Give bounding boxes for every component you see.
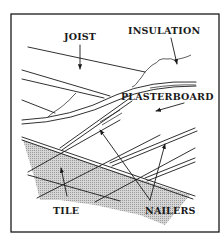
ceiling-diagram: JOIST INSULATION PLASTERBOARD TILE NAILE… (0, 0, 222, 242)
insulation-fuzz-left (48, 93, 76, 117)
plasterboard-arrow (156, 103, 184, 111)
label-tile: TILE (53, 205, 79, 216)
joist-left-a (22, 70, 110, 96)
nailer-1a (60, 98, 130, 148)
label-plasterboard: PLASTERBOARD (121, 91, 214, 102)
label-nailers: NAILERS (145, 205, 196, 216)
joist-left-c (22, 100, 55, 113)
nailer-2b (112, 131, 197, 166)
label-insulation: INSULATION (128, 25, 200, 36)
joist-line (28, 47, 145, 72)
label-joist: JOIST (63, 31, 96, 42)
nailer-2a (110, 128, 195, 163)
nailer-1b (62, 101, 132, 150)
nailer-3b (147, 162, 195, 181)
